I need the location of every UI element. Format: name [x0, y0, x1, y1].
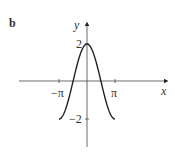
- tick-label-2: 2: [76, 38, 82, 50]
- tick-label-neg-2: −2: [69, 113, 82, 125]
- tick-label-neg-pi: −π: [51, 87, 64, 99]
- x-axis-label: x: [161, 85, 166, 97]
- y-axis-label: y: [74, 19, 79, 31]
- tick-label-pi: π: [111, 87, 117, 99]
- cosine-graph: [0, 0, 175, 152]
- panel-label: b: [9, 17, 16, 29]
